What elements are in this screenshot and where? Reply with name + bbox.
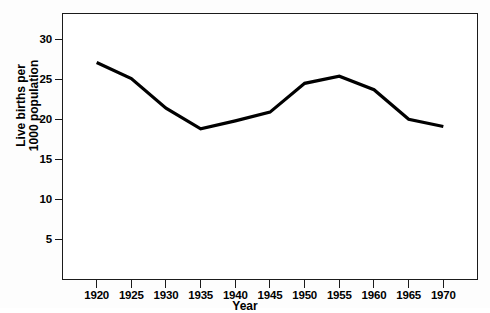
x-axis-tick bbox=[131, 280, 132, 288]
y-axis-tick-label: 5 bbox=[0, 234, 52, 246]
y-axis-tick bbox=[55, 159, 63, 160]
y-axis-tick bbox=[55, 79, 63, 80]
y-axis-title-line2: 1000 population bbox=[28, 35, 41, 175]
x-axis-tick bbox=[304, 280, 305, 288]
y-axis-tick bbox=[55, 39, 63, 40]
y-axis-tick bbox=[55, 119, 63, 120]
y-axis-title-line1: Live births per bbox=[15, 35, 28, 175]
x-axis-title: Year bbox=[0, 300, 490, 312]
y-axis-tick bbox=[55, 239, 63, 240]
x-axis-tick bbox=[200, 280, 201, 288]
x-axis-tick bbox=[96, 280, 97, 288]
x-axis-tick bbox=[373, 280, 374, 288]
y-axis-tick-label: 10 bbox=[0, 194, 52, 206]
x-axis-tick bbox=[165, 280, 166, 288]
x-axis-tick bbox=[269, 280, 270, 288]
x-axis-tick bbox=[408, 280, 409, 288]
x-axis-tick bbox=[443, 280, 444, 288]
y-axis-tick bbox=[55, 199, 63, 200]
x-axis-tick bbox=[235, 280, 236, 288]
line-series-birth-rate bbox=[62, 13, 478, 280]
data-polyline bbox=[97, 63, 444, 129]
y-axis-title: Live births per 1000 population bbox=[15, 35, 42, 175]
x-axis-tick bbox=[339, 280, 340, 288]
